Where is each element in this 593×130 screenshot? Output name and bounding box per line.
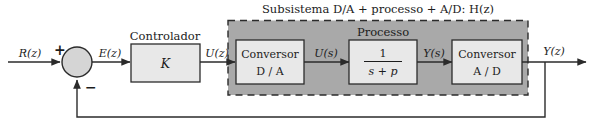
summing-minus-sign: − xyxy=(85,79,97,95)
adc-label-line1: Conversor xyxy=(458,48,516,61)
controller-caption: Controlador xyxy=(130,29,201,43)
subsystem-title: Subsistema D/A + processo + A/D: H(z) xyxy=(262,2,494,16)
summing-plus-sign: + xyxy=(54,42,66,58)
signal-label-process-output: Y(s) xyxy=(423,47,445,60)
block-diagram-svg: Subsistema D/A + processo + A/D: H(z) + … xyxy=(0,0,593,130)
adc-label-line2: A / D xyxy=(472,65,501,78)
summing-junction xyxy=(62,47,92,77)
signal-label-controller-output: U(z) xyxy=(205,47,229,60)
signal-label-error: E(z) xyxy=(98,47,121,60)
dac-label-line2: D / A xyxy=(256,65,285,78)
process-caption: Processo xyxy=(357,25,409,39)
dac-label-line1: Conversor xyxy=(241,48,299,61)
controller-gain-label: K xyxy=(160,56,171,71)
block-diagram-canvas: Subsistema D/A + processo + A/D: H(z) + … xyxy=(0,0,593,130)
signal-label-dac-output: U(s) xyxy=(314,47,338,60)
process-numerator: 1 xyxy=(380,47,387,60)
signal-label-reference: R(z) xyxy=(18,47,42,60)
signal-label-output: Y(z) xyxy=(543,45,565,58)
process-denominator: s + p xyxy=(369,65,398,78)
